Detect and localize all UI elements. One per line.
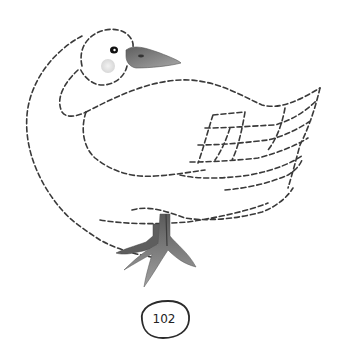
body-top-outline [86,80,320,112]
neck-back-outline [27,36,160,258]
cheek-icon [101,59,115,73]
wing-feathers [100,88,320,224]
body-front-outline [83,112,205,176]
page-number-badge: 102 [137,300,191,338]
nostril-icon [138,55,144,58]
feet-icon [116,214,196,287]
head-outline [80,29,133,85]
beak-icon [126,47,181,68]
worksheet-page: 102 [0,0,340,357]
neck-front-outline [60,70,86,116]
page-number: 102 [137,300,191,338]
